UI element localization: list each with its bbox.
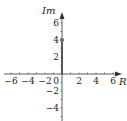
x-tick-label: 2 (76, 76, 82, 86)
x-tick-label: −2 (38, 76, 51, 86)
x-tick-label: 4 (93, 76, 99, 86)
y-tick-label: 6 (53, 18, 59, 28)
x-tick-label: 0 (53, 76, 59, 86)
y-axis-arrow-icon (60, 12, 65, 19)
x-axis-label: R (118, 76, 127, 87)
x-tick-label: −6 (4, 76, 18, 86)
data-point (60, 38, 64, 42)
x-tick-label: 6 (110, 76, 116, 86)
complex-plane-diagram: −6−4−20246642−2−4 R Im (0, 0, 127, 121)
y-tick-label: −4 (46, 103, 60, 113)
y-tick-label: −2 (46, 86, 59, 96)
y-axis-label: Im (41, 5, 55, 16)
y-tick-label: 2 (53, 52, 59, 62)
x-tick-label: −4 (21, 76, 35, 86)
y-tick-label: 4 (53, 35, 59, 45)
